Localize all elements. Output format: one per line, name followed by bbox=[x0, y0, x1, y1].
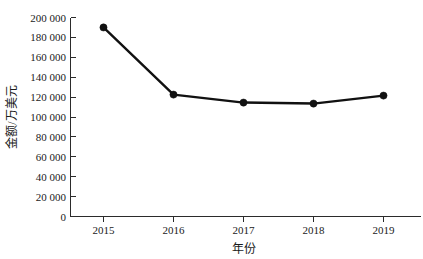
y-tick-label-160000: 160 000 bbox=[30, 51, 66, 63]
y-tick-label-40000: 40 000 bbox=[36, 171, 67, 183]
y-tick-label-0: 0 bbox=[61, 211, 67, 223]
x-tick-label-2017: 2017 bbox=[233, 224, 256, 236]
line-chart: 0 20 000 40 000 60 000 80 000 100 000 12… bbox=[0, 0, 423, 259]
data-point-2016 bbox=[170, 91, 177, 98]
y-tick-label-120000: 120 000 bbox=[30, 91, 66, 103]
x-tick-label-2019: 2019 bbox=[373, 224, 396, 236]
x-axis-title: 年份 bbox=[232, 242, 256, 256]
data-point-2019 bbox=[380, 92, 387, 99]
y-tick-label-100000: 100 000 bbox=[30, 111, 66, 123]
data-point-2015 bbox=[100, 24, 107, 31]
y-tick-label-140000: 140 000 bbox=[30, 71, 66, 83]
x-tick-label-2016: 2016 bbox=[163, 224, 186, 236]
chart-canvas: 0 20 000 40 000 60 000 80 000 100 000 12… bbox=[0, 0, 423, 259]
y-axis-title: 金额/万美元 bbox=[4, 85, 19, 148]
y-tick-label-20000: 20 000 bbox=[36, 191, 67, 203]
x-tick-label-2015: 2015 bbox=[93, 224, 116, 236]
x-tick-label-2018: 2018 bbox=[303, 224, 326, 236]
y-tick-label-60000: 60 000 bbox=[36, 151, 67, 163]
y-axis-tick-labels: 0 20 000 40 000 60 000 80 000 100 000 12… bbox=[30, 12, 66, 223]
data-point-2018 bbox=[310, 100, 317, 107]
data-point-2017 bbox=[240, 99, 247, 106]
y-tick-label-80000: 80 000 bbox=[36, 131, 67, 143]
y-tick-label-200000: 200 000 bbox=[30, 12, 66, 24]
y-tick-label-180000: 180 000 bbox=[30, 31, 66, 43]
